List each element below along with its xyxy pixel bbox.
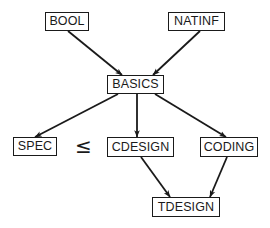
dependency-diagram: BOOL NATINF BASICS SPEC CDESIGN CODING T…	[0, 0, 270, 228]
edge-basics-to-coding	[155, 94, 226, 137]
node-tdesign: TDESIGN	[152, 197, 220, 217]
edge-basics-to-spec	[35, 94, 118, 137]
node-coding: CODING	[200, 137, 258, 157]
edge-cdesign-to-tdesign	[141, 157, 170, 197]
node-cdesign: CDESIGN	[107, 137, 174, 157]
edge-natinf-to-basics	[153, 31, 200, 75]
node-spec: SPEC	[13, 137, 57, 156]
node-bool: BOOL	[45, 12, 89, 31]
edge-bool-to-basics	[68, 31, 122, 75]
edge-coding-to-tdesign	[210, 157, 227, 197]
node-natinf: NATINF	[168, 12, 225, 31]
node-basics: BASICS	[107, 75, 164, 94]
less-or-equal-symbol: ≤	[75, 136, 92, 156]
edges-layer	[0, 0, 270, 228]
